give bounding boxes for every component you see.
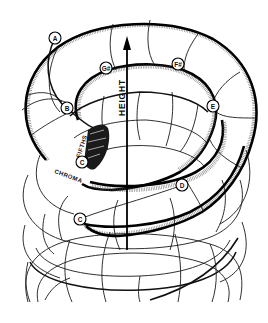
note-label-E: E: [211, 103, 216, 110]
note-node-D: D: [176, 179, 188, 191]
note-label-C-upper: C: [80, 159, 85, 166]
pitch-helix-diagram: HEIGHT FIFTHS CHROMA A G# F# B E C: [0, 0, 268, 323]
note-label-C-lower: C: [78, 216, 83, 223]
upper-coil-tube: [22, 20, 256, 236]
note-node-C-upper: C: [76, 156, 88, 168]
note-label-G-sharp: G#: [102, 65, 111, 72]
note-label-F-sharp: F#: [174, 61, 182, 68]
note-node-A: A: [49, 32, 61, 44]
note-node-E: E: [207, 100, 219, 112]
note-node-G-sharp: G#: [100, 62, 112, 74]
height-axis-label: HEIGHT: [117, 79, 127, 116]
note-node-B: B: [61, 102, 73, 114]
note-label-A: A: [53, 35, 58, 42]
note-node-F-sharp: F#: [172, 58, 184, 70]
note-node-C-lower: C: [74, 213, 86, 225]
arrowhead-up-icon: [123, 36, 131, 50]
note-label-B: B: [65, 105, 70, 112]
chroma-label: CHROMA: [54, 168, 84, 184]
helix-drawing: HEIGHT FIFTHS CHROMA A G# F# B E C: [0, 0, 268, 323]
note-label-D: D: [180, 182, 185, 189]
